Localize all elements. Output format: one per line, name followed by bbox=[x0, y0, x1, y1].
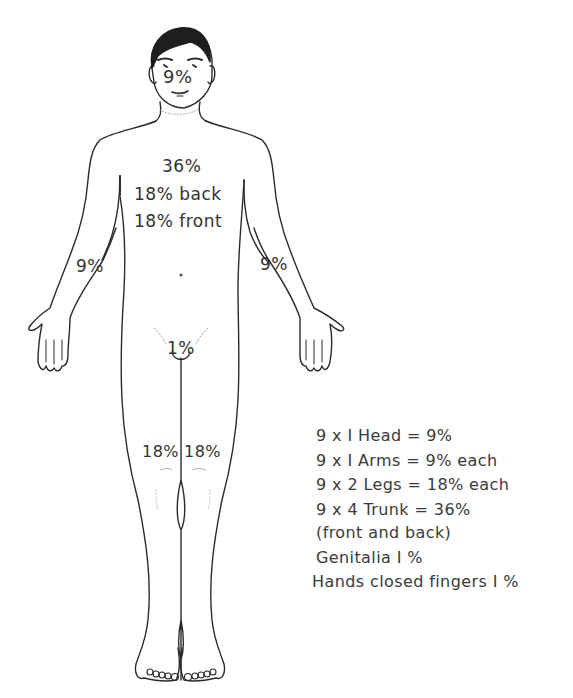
label-leg-right: 18% bbox=[142, 444, 179, 460]
legend-row-genitalia: Genitalia I % bbox=[316, 546, 519, 571]
label-leg-left: 18% bbox=[184, 444, 221, 460]
label-arm-left: 9% bbox=[260, 256, 288, 273]
legend-row-hands: Hands closed fingers I % bbox=[312, 570, 519, 595]
legend-row-arms: 9 x I Arms = 9% each bbox=[316, 449, 519, 474]
legend-row-trunk-note: (front and back) bbox=[316, 521, 519, 546]
rule-of-nines-legend: 9 x I Head = 9% 9 x I Arms = 9% each 9 x… bbox=[316, 424, 519, 595]
body-outline-right bbox=[206, 121, 344, 371]
body-outline-left bbox=[29, 121, 156, 371]
label-genitalia: 1% bbox=[167, 340, 195, 357]
label-trunk-front: 18% front bbox=[134, 213, 222, 230]
leg-divider bbox=[177, 358, 185, 680]
label-trunk-back: 18% back bbox=[134, 186, 222, 203]
legend-row-legs: 9 x 2 Legs = 18% each bbox=[316, 473, 519, 498]
label-head: 9% bbox=[163, 68, 193, 86]
legend-row-head: 9 x I Head = 9% bbox=[316, 424, 519, 449]
legend-row-trunk: 9 x 4 Trunk = 36% bbox=[316, 498, 519, 523]
torso-right-edge bbox=[181, 180, 244, 681]
label-trunk-total: 36% bbox=[162, 158, 201, 175]
label-arm-right: 9% bbox=[76, 258, 104, 275]
torso-left-edge bbox=[120, 196, 179, 681]
